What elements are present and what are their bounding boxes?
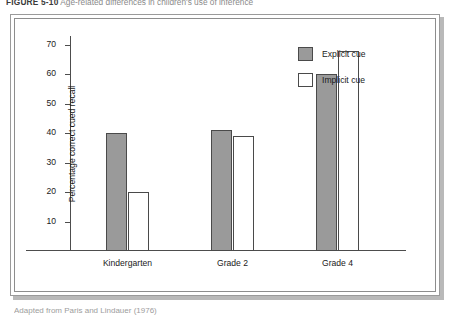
y-tick-label-50: 50	[46, 98, 56, 108]
bar-kindergarten-explicit	[106, 133, 127, 251]
y-tick-label-70: 70	[46, 39, 56, 49]
y-tick-label-40: 40	[46, 127, 56, 137]
legend-label-explicit: Explicit cue	[322, 49, 365, 59]
figure-source-note: Adapted from Paris and Lindauer (1976)	[14, 306, 434, 317]
bar-grade-2-explicit	[211, 130, 232, 251]
figure-caption: FIGURE 5-10 Age-related differences in c…	[6, 0, 446, 10]
y-tick-label-20: 20	[46, 186, 56, 196]
y-tick-label-60: 60	[46, 68, 56, 78]
legend-swatch-explicit-icon	[298, 47, 313, 61]
x-label-grade-4: Grade 4	[322, 258, 353, 268]
bar-grade-4-explicit	[316, 74, 337, 251]
chart-legend: Explicit cue Implicit cue	[298, 44, 402, 96]
figure-number: FIGURE 5-10	[6, 0, 58, 7]
legend-label-implicit: Implicit cue	[322, 75, 365, 85]
chart-plot-area: 10203040506070 Percentage correct cued r…	[70, 36, 406, 251]
figure-caption-text: Age-related differences in children's us…	[60, 0, 253, 7]
bar-grade-2-implicit	[233, 136, 254, 251]
legend-swatch-implicit-icon	[298, 73, 313, 87]
x-label-grade-2: Grade 2	[217, 258, 248, 268]
legend-item-explicit: Explicit cue	[298, 44, 402, 64]
y-tick-label-30: 30	[46, 157, 56, 167]
bar-kindergarten-implicit	[128, 192, 149, 251]
y-tick-label-10: 10	[46, 216, 56, 226]
figure-page: FIGURE 5-10 Age-related differences in c…	[0, 0, 451, 317]
legend-item-implicit: Implicit cue	[298, 70, 402, 90]
x-label-kindergarten: Kindergarten	[103, 258, 152, 268]
